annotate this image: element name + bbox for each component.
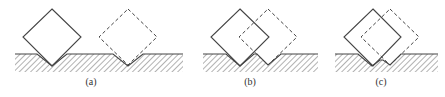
ground-hatching: [15, 52, 183, 72]
panel-label-a: (a): [85, 76, 96, 88]
panel-c: (c): [335, 9, 438, 88]
panel-label-b: (b): [244, 76, 256, 88]
ground-hatching: [203, 52, 318, 72]
panel-b: (b): [203, 9, 318, 88]
panel-label-c: (c): [375, 76, 386, 88]
panel-a: (a): [15, 9, 183, 88]
indentation-diagram: (a)(b)(c): [0, 0, 445, 97]
